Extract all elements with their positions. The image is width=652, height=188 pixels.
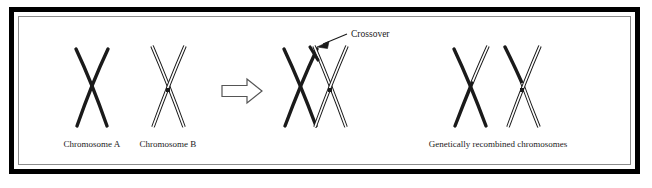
recombined-chromosomes-label: Genetically recombined chromosomes [429,139,568,149]
chromosome-a-label: Chromosome A [64,139,121,149]
figure-root: Chromosome A Chromosome B [0,0,652,188]
crossover-label: Crossover [351,29,390,39]
crossover-diagram: Chromosome A Chromosome B [0,0,652,188]
chromosome-b-label: Chromosome B [140,139,197,149]
